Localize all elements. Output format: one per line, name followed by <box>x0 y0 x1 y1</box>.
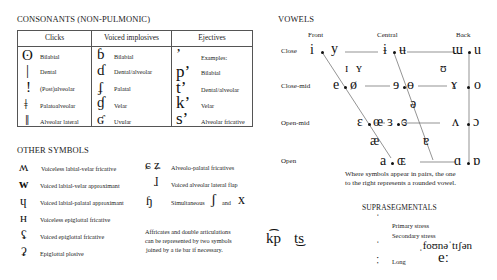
other-symbol: w <box>19 177 28 190</box>
vowel-ash: æ <box>370 134 379 148</box>
primary-stress-label: Primary stress <box>392 222 429 229</box>
other-label: Epiglottal plosive <box>40 250 84 257</box>
other-symbol: ʡ <box>21 245 27 258</box>
other-symbol: ɕ ʑ <box>145 158 160 171</box>
vowel-upsilon: ʊ <box>440 62 447 74</box>
vowel-u: u <box>474 43 481 57</box>
other-label-and: and <box>222 199 231 206</box>
secondary-stress-symbol: ˌ <box>376 232 380 243</box>
vowel-a: a <box>380 154 386 168</box>
other-symbol: ɧ <box>146 194 153 207</box>
vowel-turned-v: ʌ <box>452 115 459 129</box>
affricate-note-line: Affricates and double articulations <box>145 228 231 235</box>
vowel-turned-a: ɐ <box>423 134 429 148</box>
vowel-dot <box>403 86 406 89</box>
vowel-dot <box>321 51 324 54</box>
vowel-dot <box>468 51 471 54</box>
long-label: Long <box>392 258 406 265</box>
vowel-small-cap-oe: ɶ <box>397 154 406 168</box>
other-label: Alveolo-palatal fricatives <box>171 164 234 171</box>
vowel-oe: œ <box>373 115 383 129</box>
other-label: Voiced labial-palatal approximant <box>40 199 124 206</box>
vowel-dot <box>391 162 394 165</box>
vowel-reversed-epsilon: ɜ <box>387 115 393 129</box>
vowel-barred-i: ɨ <box>383 43 387 57</box>
vowel-dot <box>397 123 400 126</box>
other-label: Simultaneous <box>171 199 205 206</box>
other-label: Voiceless epiglottal fricative <box>40 216 110 223</box>
other-label: Voiced alveolar lateral flap <box>171 181 238 188</box>
long-example: eː <box>438 250 449 265</box>
vowel-turned-script-a: ɒ <box>473 154 480 168</box>
vowel-rams-horns: ɤ <box>451 78 457 92</box>
vowel-small-cap-i: ɪ <box>345 62 348 74</box>
vowel-turned-m: ɯ <box>452 43 463 57</box>
vowel-barred-u: ʉ <box>399 43 406 57</box>
other-symbol: ɺ <box>154 175 158 188</box>
vowel-e: e <box>333 78 339 92</box>
vowel-o: o <box>474 78 481 92</box>
vowel-dot <box>467 162 470 165</box>
vowel-dot <box>467 86 470 89</box>
vowel-i: i <box>310 43 314 57</box>
other-label: Voiced labial-velar approximant <box>40 182 120 189</box>
other-symbols-title: OTHER SYMBOLS <box>17 145 89 155</box>
vowel-note-line2: to the right represents a rounded vowel. <box>345 179 456 187</box>
vowel-script-a: ɑ <box>454 154 461 168</box>
tie-example-ts: t͜s <box>294 231 304 246</box>
affricate-note-line: joined by a tie bar if necessary. <box>146 246 223 253</box>
secondary-stress-label: Secondary stress <box>392 232 436 239</box>
vowel-barred-o: ɵ <box>407 78 414 92</box>
vowel-closed-reversed-epsilon: ɞ <box>401 115 407 129</box>
other-label: Voiced epiglottal fricative <box>40 233 104 240</box>
vowel-dot <box>467 123 470 126</box>
other-label: Voiceless labial-velar fricative <box>41 165 116 172</box>
other-symbol: ʍ <box>19 160 28 173</box>
vowel-schwa: ə <box>410 97 416 111</box>
vowel-y: y <box>331 42 338 56</box>
other-symbol-esh: ʃ <box>211 192 216 207</box>
other-symbol: ʜ <box>20 211 27 224</box>
other-symbol: ʢ <box>21 228 27 241</box>
vowel-reversed-e: ɘ <box>393 78 399 92</box>
vowel-dot <box>368 123 371 126</box>
vowel-note-line1: Where symbols appear in pairs, the one <box>345 170 456 178</box>
suprasegmentals-title: SUPRASEGMENTALS <box>362 203 437 212</box>
other-symbol-x: x <box>238 193 245 207</box>
vowel-open-o: ɔ <box>473 115 479 129</box>
vowel-small-cap-y: ʏ <box>356 62 362 74</box>
long-symbol: ː <box>376 253 379 265</box>
vowel-dot <box>393 51 396 54</box>
vowel-dot <box>344 86 347 89</box>
other-symbol: ɥ <box>20 194 27 207</box>
affricate-note-line: can be represented by two symbols <box>145 237 232 244</box>
primary-stress-symbol: ˈ <box>376 213 380 224</box>
vowel-o-slash: ø <box>350 78 357 92</box>
tie-example-kp: k͡p <box>266 231 281 246</box>
vowel-epsilon: ɛ <box>357 115 363 129</box>
